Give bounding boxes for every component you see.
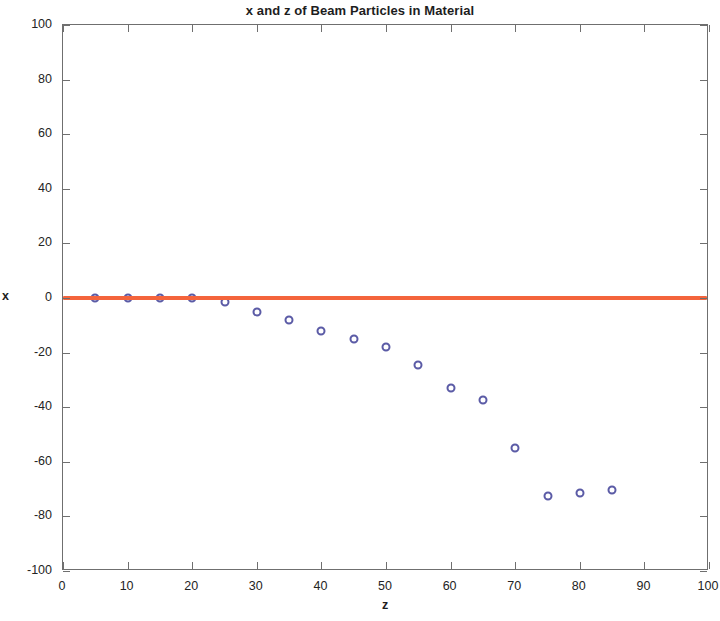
y-tick-label: -100 (0, 563, 52, 577)
y-axis-tick-right (700, 134, 707, 135)
x-tick-label: 20 (184, 579, 198, 593)
y-axis-tick-right (700, 353, 707, 354)
data-point-marker (608, 486, 617, 495)
x-axis-tick (709, 562, 710, 569)
y-axis-tick-right (700, 243, 707, 244)
y-axis-tick (63, 243, 70, 244)
x-axis-tick (63, 562, 64, 569)
y-axis-tick-right (700, 516, 707, 517)
y-axis-tick (63, 134, 70, 135)
x-tick-label: 80 (572, 579, 586, 593)
data-point-marker (382, 343, 391, 352)
data-point-marker (252, 307, 261, 316)
data-point-marker (543, 491, 552, 500)
y-axis-tick-right (700, 407, 707, 408)
x-axis-tick (321, 562, 322, 569)
y-axis-label: x (2, 289, 9, 303)
data-point-marker (285, 315, 294, 324)
x-axis-tick-top (709, 25, 710, 32)
y-tick-label: -80 (0, 508, 52, 522)
x-axis-tick (451, 562, 452, 569)
x-tick-label: 10 (120, 579, 134, 593)
x-tick-label: 90 (636, 579, 650, 593)
x-tick-label: 30 (249, 579, 263, 593)
chart-title: x and z of Beam Particles in Material (0, 3, 720, 18)
y-axis-tick-right (700, 189, 707, 190)
x-axis-tick (386, 562, 387, 569)
x-axis-tick-top (63, 25, 64, 32)
x-axis-tick-top (580, 25, 581, 32)
x-axis-tick-top (515, 25, 516, 32)
x-axis-tick-top (386, 25, 387, 32)
y-axis-tick-right (700, 25, 707, 26)
y-tick-label: 80 (0, 72, 52, 86)
x-axis-tick-top (644, 25, 645, 32)
x-tick-label: 0 (59, 579, 66, 593)
x-tick-label: 70 (507, 579, 521, 593)
x-axis-tick-top (192, 25, 193, 32)
y-axis-tick (63, 407, 70, 408)
y-axis-tick (63, 80, 70, 81)
y-axis-tick (63, 571, 70, 572)
y-tick-label: 100 (0, 17, 52, 31)
data-point-marker (575, 489, 584, 498)
x-axis-tick (192, 562, 193, 569)
data-point-marker (317, 326, 326, 335)
x-axis-tick-top (128, 25, 129, 32)
y-axis-tick-right (700, 80, 707, 81)
x-axis-tick-top (321, 25, 322, 32)
y-tick-label: -20 (0, 345, 52, 359)
x-tick-label: 60 (443, 579, 457, 593)
y-axis-tick (63, 189, 70, 190)
x-axis-tick (257, 562, 258, 569)
data-point-marker (478, 396, 487, 405)
x-axis-label: z (62, 598, 708, 612)
data-point-marker (349, 334, 358, 343)
y-axis-tick (63, 516, 70, 517)
x-axis-tick (580, 562, 581, 569)
figure-canvas: x and z of Beam Particles in Material 01… (0, 0, 720, 621)
data-point-marker (414, 360, 423, 369)
plot-inner (63, 25, 707, 569)
y-tick-label: 20 (0, 235, 52, 249)
y-axis-tick-right (700, 298, 707, 299)
x-tick-label: 50 (378, 579, 392, 593)
data-point-marker (511, 444, 520, 453)
data-point-marker (446, 384, 455, 393)
x-axis-tick-top (257, 25, 258, 32)
plot-area (62, 24, 708, 570)
y-tick-label: 60 (0, 126, 52, 140)
y-tick-label: 40 (0, 181, 52, 195)
y-axis-tick-right (700, 571, 707, 572)
y-axis-tick (63, 298, 70, 299)
y-axis-tick-right (700, 462, 707, 463)
x-axis-tick-top (451, 25, 452, 32)
x-axis-tick (644, 562, 645, 569)
y-tick-label: -60 (0, 454, 52, 468)
y-axis-tick (63, 25, 70, 26)
y-tick-label: -40 (0, 399, 52, 413)
x-tick-label: 100 (698, 579, 719, 593)
reference-line (63, 296, 707, 300)
x-axis-tick (515, 562, 516, 569)
y-axis-tick (63, 462, 70, 463)
x-tick-label: 40 (313, 579, 327, 593)
x-axis-tick (128, 562, 129, 569)
y-axis-tick (63, 353, 70, 354)
